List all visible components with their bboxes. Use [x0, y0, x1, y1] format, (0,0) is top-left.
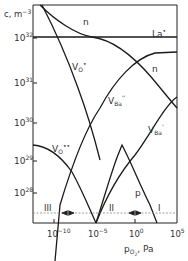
- xtick-10-m5: 10−5: [88, 227, 108, 239]
- label-vba-single: VBa': [148, 123, 164, 136]
- label-n-right: n: [152, 64, 158, 74]
- curve-vba-double: [55, 52, 177, 261]
- ytick-10-28: 1028: [14, 186, 33, 198]
- y-tick-labels: 1032 1031 1030 1029 1028: [14, 31, 33, 198]
- curve-p: [96, 145, 157, 223]
- region-III-label: III: [44, 203, 52, 213]
- xtick-10-0: 100: [129, 227, 144, 239]
- y-ticks: [33, 38, 37, 193]
- defect-concentration-chart: 1032 1031 1030 1029 1028 c, m−3 10−10 10…: [0, 0, 188, 261]
- xtick-10-m10: 10−10: [47, 227, 71, 239]
- label-vo-single: VO•: [72, 60, 86, 73]
- ytick-10-31: 1031: [14, 76, 33, 88]
- x-tick-labels: 10−10 10−5 100 105: [47, 227, 185, 239]
- xtick-10-5: 105: [170, 227, 185, 239]
- curve-labels: La• n n VO• VO•• VBa'' VBa' p: [52, 17, 166, 198]
- label-n-top: n: [83, 17, 89, 27]
- label-vo-double: VO••: [52, 142, 70, 155]
- region-II-label: II: [109, 203, 114, 213]
- region-I-label: I: [158, 203, 161, 213]
- y-axis-label: c, m−3: [4, 8, 31, 19]
- label-p: p: [135, 188, 141, 198]
- ytick-10-32: 1032: [14, 31, 33, 43]
- ytick-10-29: 1029: [14, 154, 33, 166]
- label-vba-double: VBa'': [108, 94, 126, 107]
- curve-vo-double: [33, 145, 96, 223]
- x-axis-label: pO2, Pa: [124, 244, 154, 257]
- ytick-10-30: 1030: [14, 116, 33, 128]
